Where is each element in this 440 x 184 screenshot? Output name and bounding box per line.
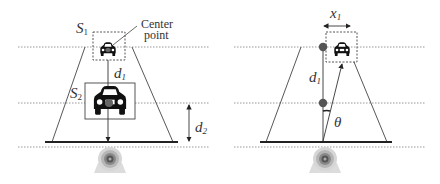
s1-label: S1 [76, 20, 88, 37]
left-panel: Center point S1 d1 S2 d2 [18, 17, 210, 173]
camera-icon [309, 147, 341, 173]
s2-label: S2 [70, 85, 82, 102]
diagram-canvas: Center point S1 d1 S2 d2 x1 [0, 0, 440, 184]
d1-label: d1 [309, 69, 321, 86]
fov-right-edge [354, 62, 387, 142]
center-point-dot-large [105, 99, 113, 107]
d1-label: d1 [114, 65, 126, 82]
car-small-icon [334, 42, 349, 56]
theta-arc [323, 111, 330, 112]
fov-left-edge [266, 47, 301, 142]
center-point-label-line2: point [144, 28, 169, 42]
fov-right-edge [132, 47, 173, 142]
x1-label: x1 [329, 5, 341, 22]
d2-label: d2 [195, 119, 208, 136]
point-dot-icon [319, 99, 327, 107]
point-dot-icon [319, 43, 327, 51]
theta-label: θ [334, 114, 342, 130]
right-panel: x1 θ d1 [234, 5, 425, 173]
camera-icon [94, 147, 126, 173]
center-point-dot [106, 48, 110, 52]
